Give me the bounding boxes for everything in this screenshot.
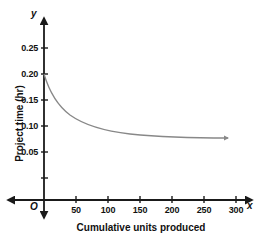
xtick-label-150: 150 — [126, 205, 154, 215]
xtick-label-50: 50 — [62, 205, 90, 215]
x-axis-variable-name: x — [247, 200, 253, 211]
learning-curve-chart: 0.25 0.20 0.15 0.10 0.05 50 100 150 200 … — [0, 0, 260, 243]
learning-curve-line — [44, 74, 228, 138]
origin-label: O — [30, 201, 38, 212]
y-axis-variable-name: y — [31, 8, 37, 19]
x-axis-title: Cumulative units produced — [0, 222, 260, 233]
y-axis-title: Project time (hr) — [14, 49, 25, 199]
xtick-label-200: 200 — [158, 205, 186, 215]
xtick-label-100: 100 — [94, 205, 122, 215]
xtick-label-250: 250 — [190, 205, 218, 215]
xtick-label-300: 300 — [222, 205, 250, 215]
